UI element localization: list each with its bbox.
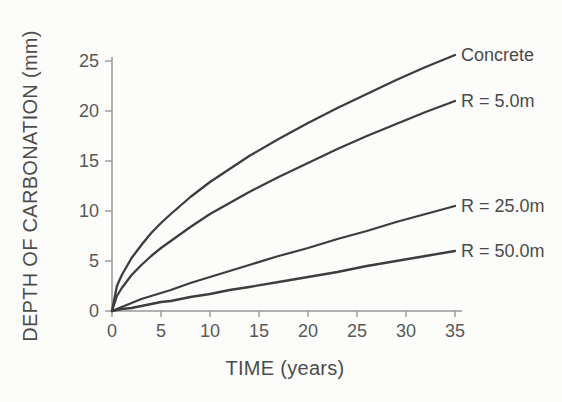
x-tick-label-0: 0 [107, 321, 117, 341]
x-tick-label-20: 20 [298, 321, 318, 341]
series-label-concrete: Concrete [461, 45, 534, 65]
y-ticks-group: 0510152025 [79, 51, 112, 321]
y-tick-label-20: 20 [79, 101, 99, 121]
series-curve-r-5-0m [112, 101, 455, 311]
y-tick-label-25: 25 [79, 51, 99, 71]
x-tick-label-30: 30 [396, 321, 416, 341]
chart-canvas: 05101520253035 0510152025 ConcreteR = 5.… [0, 0, 562, 402]
series-label-r-5-0m: R = 5.0m [461, 91, 535, 111]
x-tick-label-15: 15 [249, 321, 269, 341]
y-axis-title: DEPTH OF CARBONATION (mm) [19, 30, 41, 342]
series-label-r-50-0m: R = 50.0m [461, 241, 545, 261]
y-tick-label-15: 15 [79, 151, 99, 171]
axes-group [112, 57, 462, 311]
series-curves-group [112, 55, 455, 311]
carbonation-depth-figure: 05101520253035 0510152025 ConcreteR = 5.… [0, 0, 562, 402]
x-ticks-group: 05101520253035 [107, 311, 465, 341]
x-tick-label-25: 25 [347, 321, 367, 341]
y-tick-label-10: 10 [79, 201, 99, 221]
x-tick-label-35: 35 [445, 321, 465, 341]
y-tick-label-0: 0 [89, 301, 99, 321]
series-label-r-25-0m: R = 25.0m [461, 196, 545, 216]
series-curve-r-50-0m [112, 251, 455, 311]
series-labels-group: ConcreteR = 5.0mR = 25.0mR = 50.0m [461, 45, 545, 261]
x-tick-label-10: 10 [200, 321, 220, 341]
series-curve-concrete [112, 55, 455, 311]
x-tick-label-5: 5 [156, 321, 166, 341]
x-axis-title: TIME (years) [225, 357, 344, 379]
y-tick-label-5: 5 [89, 251, 99, 271]
